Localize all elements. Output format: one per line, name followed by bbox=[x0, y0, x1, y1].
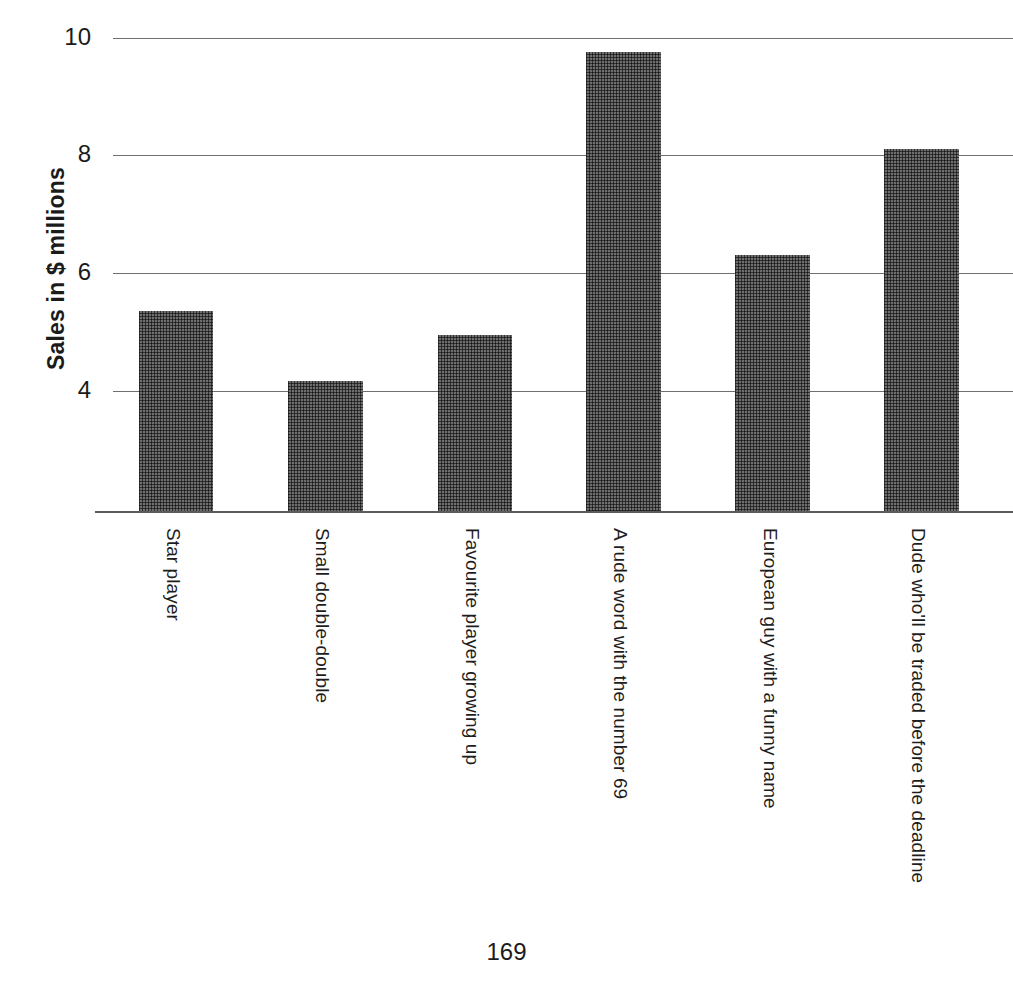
x-label-favourite-player: Favourite player growing up bbox=[461, 528, 483, 948]
bar-favourite-player bbox=[438, 335, 512, 511]
bar-dude-traded bbox=[884, 149, 959, 511]
bar-european-guy bbox=[735, 255, 810, 511]
bar-small-double-double bbox=[288, 381, 363, 511]
plot-area: 10 8 6 4 bbox=[0, 0, 1013, 560]
x-label-rude-word-69: A rude word with the number 69 bbox=[609, 528, 631, 948]
y-tick-label-6: 6 bbox=[31, 260, 91, 284]
x-axis-line bbox=[95, 511, 1013, 513]
gridline-6 bbox=[113, 273, 1013, 274]
x-label-european-guy: European guy with a funny name bbox=[759, 528, 781, 948]
bar-star-player bbox=[139, 311, 213, 511]
y-tick-label-4: 4 bbox=[31, 378, 91, 402]
y-tick-label-8: 8 bbox=[31, 142, 91, 166]
x-label-small-double-double: Small double-double bbox=[311, 528, 333, 948]
gridline-8 bbox=[113, 155, 1013, 156]
page-number: 169 bbox=[0, 938, 1013, 966]
x-label-dude-traded: Dude who'll be traded before the deadlin… bbox=[907, 528, 929, 948]
x-label-star-player: Star player bbox=[162, 528, 184, 948]
y-tick-label-10: 10 bbox=[31, 25, 91, 49]
gridline-4 bbox=[113, 391, 1013, 392]
chart-page: Sales in $ millions 10 8 6 4 Star player… bbox=[0, 0, 1013, 997]
gridline-10 bbox=[113, 38, 1013, 39]
bar-rude-word-69 bbox=[586, 52, 661, 511]
